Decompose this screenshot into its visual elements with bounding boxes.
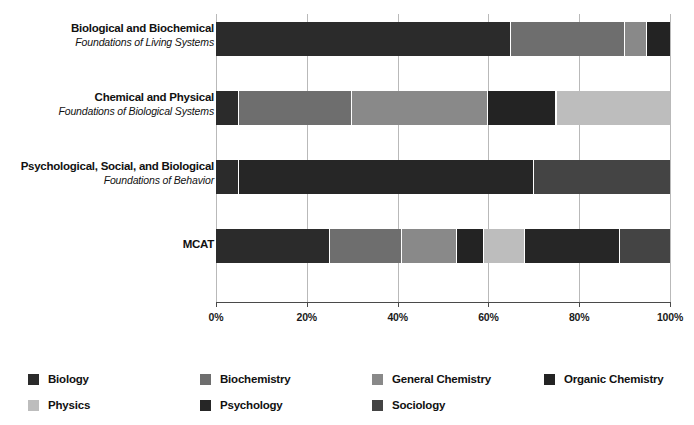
bar-segment-general-chemistry (625, 22, 648, 56)
category-label: Biological and BiochemicalFoundations of… (4, 22, 214, 48)
category-label-secondary: Foundations of Living Systems (4, 36, 214, 48)
legend-swatch-icon (200, 400, 211, 411)
plot-area (216, 14, 670, 302)
category-label-primary: Biological and Biochemical (4, 22, 214, 36)
x-tick-label: 80% (569, 311, 589, 323)
bar-segment-physics (484, 229, 525, 263)
bar-segment-psychology (239, 160, 534, 194)
legend-label: Physics (48, 399, 90, 411)
x-tick-mark (216, 302, 217, 307)
bar-segment-sociology (534, 160, 670, 194)
bar-row (216, 22, 670, 56)
category-label-primary: Psychological, Social, and Biological (4, 160, 214, 174)
legend-item-psychology[interactable]: Psychology (200, 399, 372, 411)
category-label-secondary: Foundations of Biological Systems (4, 105, 214, 117)
x-tick-label: 0% (209, 311, 224, 323)
bar-segment-organic-chemistry (457, 229, 484, 263)
legend-item-biochemistry[interactable]: Biochemistry (200, 373, 372, 385)
bar-segment-biology (216, 229, 330, 263)
chart-legend: BiologyBiochemistryGeneral ChemistryOrga… (28, 366, 668, 418)
x-axis-line (216, 302, 670, 303)
bar-segment-biology (216, 22, 511, 56)
legend-item-organic-chemistry[interactable]: Organic Chemistry (544, 373, 694, 385)
bar-segment-biochemistry (330, 229, 403, 263)
legend-swatch-icon (28, 400, 39, 411)
bar-segment-biology (216, 160, 239, 194)
bar-row (216, 229, 670, 263)
bar-row (216, 91, 670, 125)
stacked-bar-chart: 0%20%40%60%80%100% Biological and Bioche… (0, 0, 694, 425)
legend-label: General Chemistry (392, 373, 491, 385)
legend-item-sociology[interactable]: Sociology (372, 399, 544, 411)
legend-item-biology[interactable]: Biology (28, 373, 200, 385)
category-label: MCAT (4, 238, 214, 252)
x-tick-mark (398, 302, 399, 307)
legend-swatch-icon (372, 374, 383, 385)
bar-segment-biochemistry (511, 22, 625, 56)
x-tick-label: 20% (297, 311, 317, 323)
legend-row: BiologyBiochemistryGeneral ChemistryOrga… (28, 366, 668, 392)
x-tick-mark (307, 302, 308, 307)
category-label: Psychological, Social, and BiologicalFou… (4, 160, 214, 186)
category-label-primary: Chemical and Physical (4, 91, 214, 105)
bar-segment-organic-chemistry (488, 91, 556, 125)
legend-swatch-icon (200, 374, 211, 385)
x-tick-mark (670, 302, 671, 307)
bar-segment-physics (557, 91, 671, 125)
x-tick-label: 40% (387, 311, 407, 323)
legend-label: Biochemistry (220, 373, 290, 385)
bar-segment-sociology (620, 229, 670, 263)
legend-label: Sociology (392, 399, 445, 411)
bar-segment-general-chemistry (352, 91, 488, 125)
legend-swatch-icon (544, 374, 555, 385)
bar-segment-biology (216, 91, 239, 125)
legend-item-general-chemistry[interactable]: General Chemistry (372, 373, 544, 385)
legend-swatch-icon (372, 400, 383, 411)
category-label-secondary: Foundations of Behavior (4, 174, 214, 186)
x-tick-label: 60% (478, 311, 498, 323)
bar-segment-psychology (525, 229, 620, 263)
legend-label: Organic Chemistry (564, 373, 664, 385)
legend-item-physics[interactable]: Physics (28, 399, 200, 411)
x-tick-mark (488, 302, 489, 307)
bar-segment-biochemistry (239, 91, 353, 125)
x-tick-label: 100% (657, 311, 683, 323)
gridline-100% (670, 14, 671, 302)
legend-label: Biology (48, 373, 89, 385)
bar-segment-general-chemistry (402, 229, 456, 263)
x-tick-mark (579, 302, 580, 307)
bar-segment-organic-chemistry (647, 22, 670, 56)
category-label: Chemical and PhysicalFoundations of Biol… (4, 91, 214, 117)
legend-row: PhysicsPsychologySociology (28, 392, 668, 418)
category-label-primary: MCAT (4, 238, 214, 252)
bar-row (216, 160, 670, 194)
legend-swatch-icon (28, 374, 39, 385)
legend-label: Psychology (220, 399, 283, 411)
